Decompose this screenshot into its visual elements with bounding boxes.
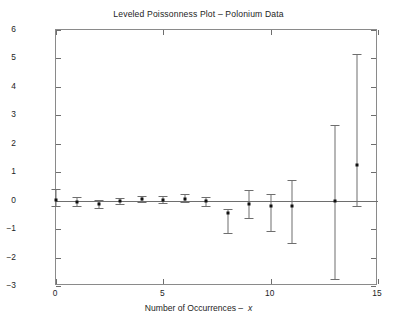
x-tick — [56, 279, 57, 284]
y-tick — [371, 115, 376, 116]
data-point — [76, 200, 79, 203]
y-tick — [56, 229, 61, 230]
data-point — [291, 204, 294, 207]
error-bar-cap — [245, 218, 254, 219]
error-bar-cap — [180, 194, 189, 195]
reference-line-zero — [56, 201, 378, 202]
error-bar-cap — [223, 233, 232, 234]
y-tick-label: 5 — [11, 52, 16, 62]
y-tick-label: 2 — [11, 138, 16, 148]
error-bar-cap — [116, 204, 125, 205]
data-point — [226, 211, 229, 214]
data-point — [355, 164, 358, 167]
error-bar-cap — [159, 196, 168, 197]
y-tick — [56, 58, 61, 59]
data-point — [119, 199, 122, 202]
y-tick-label: 1 — [11, 166, 16, 176]
error-bar-cap — [223, 209, 232, 210]
chart-title: Leveled Poissonness Plot – Polonium Data — [0, 9, 397, 19]
error-bar-cap — [288, 180, 297, 181]
error-bar-cap — [202, 206, 211, 207]
error-bar-cap — [73, 197, 82, 198]
x-tick — [271, 30, 272, 35]
y-tick — [56, 172, 61, 173]
x-axis-title: Number of Occurrences – x — [0, 303, 397, 313]
error-bar-cap — [73, 206, 82, 207]
y-tick — [371, 58, 376, 59]
error-bar-cap — [266, 231, 275, 232]
data-point — [140, 198, 143, 201]
error-bar-cap — [352, 54, 361, 55]
error-bar-cap — [352, 206, 361, 207]
data-point — [162, 199, 165, 202]
data-point — [334, 199, 337, 202]
y-tick-label: −1 — [6, 223, 16, 233]
error-bar — [292, 180, 293, 243]
y-tick — [56, 115, 61, 116]
y-tick-label: 3 — [11, 109, 16, 119]
error-bar-cap — [331, 125, 340, 126]
x-tick — [378, 30, 379, 35]
y-tick — [371, 87, 376, 88]
x-tick — [271, 279, 272, 284]
x-tick — [163, 279, 164, 284]
data-point — [183, 198, 186, 201]
error-bar — [270, 194, 271, 231]
x-tick — [163, 30, 164, 35]
y-tick-label: −2 — [6, 252, 16, 262]
y-tick-label: −3 — [6, 280, 16, 290]
y-tick — [56, 258, 61, 259]
error-bar-cap — [202, 197, 211, 198]
error-bar-cap — [331, 279, 340, 280]
error-bar-cap — [159, 203, 168, 204]
y-tick — [371, 258, 376, 259]
x-tick-label: 5 — [160, 288, 165, 298]
leveled-poissonness-chart: Leveled Poissonness Plot – Polonium Data… — [0, 0, 397, 328]
error-bar — [356, 54, 357, 206]
error-bar-cap — [137, 202, 146, 203]
y-tick — [371, 30, 376, 31]
x-tick-label: 0 — [53, 288, 58, 298]
y-tick — [56, 87, 61, 88]
x-tick — [378, 279, 379, 284]
error-bar-cap — [137, 196, 146, 197]
error-bar — [56, 189, 57, 207]
data-point — [205, 200, 208, 203]
y-tick — [56, 286, 61, 287]
data-point — [55, 199, 58, 202]
error-bar-cap — [94, 208, 103, 209]
error-bar-cap — [52, 189, 61, 190]
y-tick — [56, 144, 61, 145]
y-tick — [371, 144, 376, 145]
x-tick-label: 15 — [372, 288, 381, 298]
error-bar-cap — [266, 194, 275, 195]
plot-area — [55, 29, 377, 285]
y-tick — [371, 172, 376, 173]
data-point — [97, 202, 100, 205]
error-bar-cap — [288, 243, 297, 244]
x-tick — [56, 30, 57, 35]
error-bar-cap — [94, 200, 103, 201]
error-bar-cap — [52, 206, 61, 207]
error-bar-cap — [180, 202, 189, 203]
y-tick — [371, 229, 376, 230]
y-tick-label: 0 — [11, 195, 16, 205]
y-tick — [371, 201, 376, 202]
data-point — [248, 202, 251, 205]
error-bar-cap — [245, 190, 254, 191]
data-point — [269, 204, 272, 207]
x-tick-label: 10 — [265, 288, 274, 298]
y-tick — [371, 286, 376, 287]
y-tick-label: 6 — [11, 24, 16, 34]
y-tick-label: 4 — [11, 81, 16, 91]
